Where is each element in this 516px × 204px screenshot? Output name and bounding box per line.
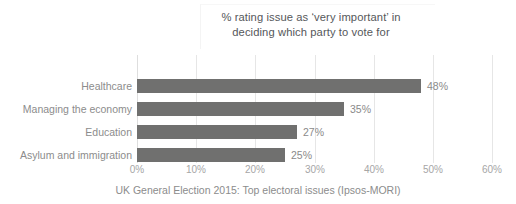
- x-tick-label: 40%: [364, 163, 384, 177]
- bars-layer: 48%35%27%25%: [137, 55, 492, 163]
- bar-education: [137, 125, 297, 139]
- bar-value-label: 27%: [303, 123, 324, 141]
- x-axis: 0%10%20%30%40%50%60%: [137, 163, 492, 179]
- bar-chart: % rating issue as ‘very important’ in de…: [0, 0, 516, 204]
- chart-title-line-2: deciding which party to vote for: [196, 25, 426, 40]
- category-axis-labels: HealthcareManaging the economyEducationA…: [0, 55, 132, 163]
- category-label: Managing the economy: [0, 98, 132, 121]
- bar-value-label: 35%: [350, 100, 371, 118]
- bar-row: 48%: [137, 75, 492, 98]
- gridline-60pct: [492, 55, 493, 163]
- bar-value-label: 25%: [291, 146, 312, 164]
- bar-row: 35%: [137, 98, 492, 121]
- bar-row: 27%: [137, 121, 492, 144]
- x-tick-label: 30%: [305, 163, 325, 177]
- x-tick-label: 0%: [130, 163, 144, 177]
- bar-value-label: 48%: [427, 77, 448, 95]
- x-tick-label: 50%: [423, 163, 443, 177]
- x-tick-label: 60%: [482, 163, 502, 177]
- bar-managing-the-economy: [137, 102, 344, 116]
- chart-title-line-1: % rating issue as ‘very important’ in: [196, 10, 426, 25]
- x-tick-label: 10%: [186, 163, 206, 177]
- chart-caption: UK General Election 2015: Top electoral …: [0, 183, 516, 197]
- chart-title: % rating issue as ‘very important’ in de…: [196, 10, 426, 40]
- category-label: Asylum and immigration: [0, 144, 132, 167]
- category-label: Healthcare: [0, 75, 132, 98]
- category-label: Education: [0, 121, 132, 144]
- x-tick-label: 20%: [245, 163, 265, 177]
- bar-healthcare: [137, 79, 421, 93]
- bar-asylum-and-immigration: [137, 148, 285, 162]
